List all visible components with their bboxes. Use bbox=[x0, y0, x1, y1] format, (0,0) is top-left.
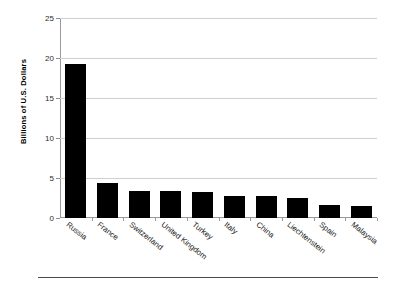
bar-slot bbox=[65, 18, 86, 218]
x-axis-tick-label: China bbox=[254, 220, 276, 240]
bars-layer bbox=[60, 18, 377, 218]
bar bbox=[319, 205, 340, 218]
x-axis-tick-mark bbox=[377, 218, 378, 221]
bottom-divider-rule bbox=[38, 277, 378, 278]
bar-slot bbox=[224, 18, 245, 218]
bar bbox=[129, 191, 150, 218]
x-axis-tick-label: Malaysia bbox=[349, 220, 379, 246]
y-axis-tick-label: 5 bbox=[50, 174, 54, 183]
bar-chart-figure: Billions of U.S. Dollars 0510152025 Russ… bbox=[0, 0, 395, 286]
y-axis-title-label: Billions of U.S. Dollars bbox=[20, 58, 29, 143]
bar-slot bbox=[351, 18, 372, 218]
y-axis-tick-label: 20 bbox=[45, 54, 54, 63]
bar-slot bbox=[129, 18, 150, 218]
x-axis-tick-label: Italy bbox=[222, 220, 239, 236]
bar-slot bbox=[160, 18, 181, 218]
plot-area: 0510152025 bbox=[60, 18, 377, 218]
bar bbox=[65, 64, 86, 218]
bar bbox=[256, 196, 277, 218]
bar-slot bbox=[192, 18, 213, 218]
bar-slot bbox=[287, 18, 308, 218]
y-axis-tick-label: 0 bbox=[50, 214, 54, 223]
x-axis-tick-label: Turkey bbox=[191, 220, 215, 242]
bar-slot bbox=[97, 18, 118, 218]
bar-slot bbox=[319, 18, 340, 218]
x-axis-tick-label: Switzerland bbox=[127, 220, 164, 252]
bar bbox=[351, 206, 372, 218]
bar bbox=[160, 191, 181, 218]
y-axis-tick-label: 25 bbox=[45, 14, 54, 23]
x-axis-tick-label: Spain bbox=[318, 220, 339, 239]
y-axis-tick-label: 10 bbox=[45, 134, 54, 143]
x-axis-tick-label: Russia bbox=[64, 220, 88, 242]
bar bbox=[224, 196, 245, 218]
bar bbox=[287, 198, 308, 218]
x-axis-tick-labels: RussiaFranceSwitzerlandUnited KingdomTur… bbox=[60, 220, 377, 275]
x-axis-tick-label: France bbox=[96, 220, 121, 242]
y-axis-title: Billions of U.S. Dollars bbox=[17, 36, 31, 166]
y-axis-tick-mark bbox=[56, 218, 60, 219]
y-axis-tick-label: 15 bbox=[45, 94, 54, 103]
bar-slot bbox=[256, 18, 277, 218]
bar bbox=[97, 183, 118, 218]
bar bbox=[192, 192, 213, 218]
